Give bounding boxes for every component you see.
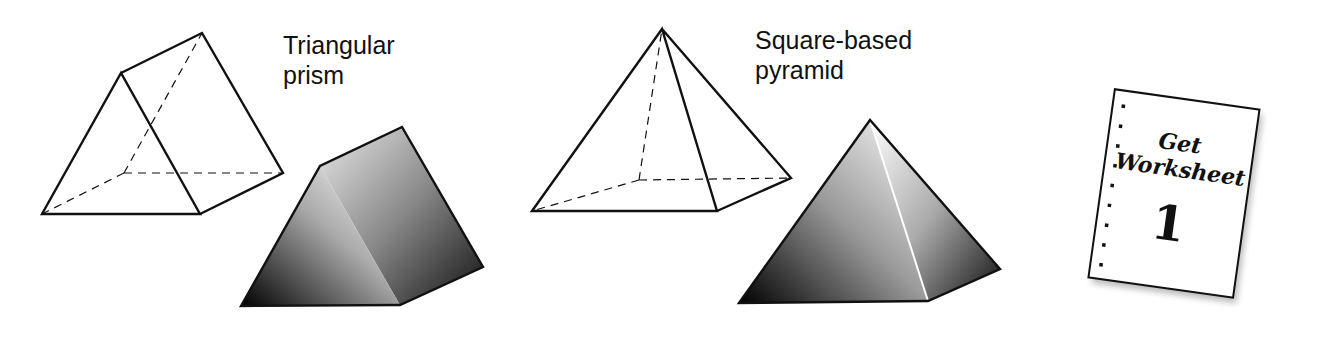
prism-label-line1: Triangular bbox=[283, 30, 395, 60]
pyramid-label-line1: Square-based bbox=[755, 25, 912, 55]
square-pyramid-shaded bbox=[739, 120, 1000, 303]
triangular-prism-wireframe bbox=[42, 33, 283, 214]
prism-label-line2: prism bbox=[283, 60, 395, 90]
prism-label: Triangular prism bbox=[283, 30, 395, 90]
get-worksheet-card[interactable]: Get Worksheet 1 bbox=[1088, 89, 1264, 303]
square-pyramid-wireframe bbox=[532, 29, 791, 211]
pyramid-label: Square-based pyramid bbox=[755, 25, 912, 85]
triangular-prism-shaded bbox=[241, 127, 483, 306]
diagram-canvas: Get Worksheet 1 bbox=[0, 0, 1320, 343]
pyramid-label-line2: pyramid bbox=[755, 55, 912, 85]
